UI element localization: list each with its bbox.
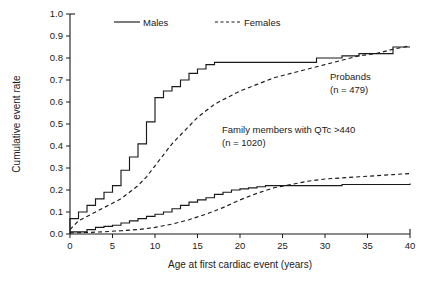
y-tick-label-0.7: 0.7 <box>50 74 63 85</box>
cumulative-event-rate-chart: 0.00.10.20.30.40.50.60.70.80.91.00510152… <box>0 0 429 286</box>
y-tick-label-0.2: 0.2 <box>50 184 63 195</box>
chart-figure: 0.00.10.20.30.40.50.60.70.80.91.00510152… <box>0 0 429 286</box>
y-tick-label-0.1: 0.1 <box>50 206 63 217</box>
x-tick-label-20: 20 <box>235 240 246 251</box>
annotation-probands-count: (n = 479) <box>330 84 368 95</box>
y-tick-label-0.0: 0.0 <box>50 228 63 239</box>
x-tick-label-25: 25 <box>277 240 288 251</box>
y-tick-label-0.4: 0.4 <box>50 140 63 151</box>
y-tick-label-1.0: 1.0 <box>50 8 63 19</box>
legend-label-females: Females <box>244 17 281 28</box>
x-tick-label-15: 15 <box>192 240 203 251</box>
annotation-probands-title: Probands <box>330 71 371 82</box>
y-tick-label-0.9: 0.9 <box>50 30 63 41</box>
x-tick-label-30: 30 <box>320 240 331 251</box>
y-tick-label-0.3: 0.3 <box>50 162 63 173</box>
series-family-members-males <box>70 183 410 231</box>
chart-annotations: Probands(n = 479)Family members with QTc… <box>222 71 371 148</box>
y-tick-label-0.8: 0.8 <box>50 52 63 63</box>
x-tick-label-5: 5 <box>110 240 115 251</box>
legend-label-males: Males <box>143 17 169 28</box>
x-tick-label-10: 10 <box>150 240 161 251</box>
x-tick-label-35: 35 <box>362 240 373 251</box>
x-axis-title: Age at first cardiac event (years) <box>168 259 312 270</box>
annotation-family-count: (n = 1020) <box>222 137 266 148</box>
x-tick-label-40: 40 <box>405 240 416 251</box>
annotation-family-title: Family members with QTc >440 <box>222 124 355 135</box>
y-tick-label-0.6: 0.6 <box>50 96 63 107</box>
y-axis-title: Cumulative event rate <box>11 75 22 173</box>
x-tick-label-0: 0 <box>67 240 72 251</box>
y-tick-label-0.5: 0.5 <box>50 118 63 129</box>
chart-legend: MalesFemales <box>114 17 281 28</box>
